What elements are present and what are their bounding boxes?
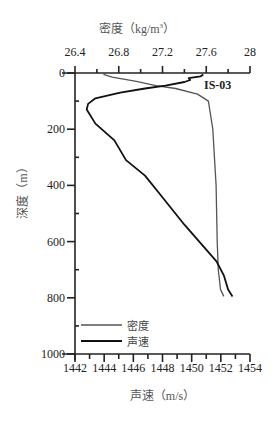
sound-speed-series-line [87,74,233,296]
legend-sound-speed-label: 声速 [127,333,149,349]
x-top-tick-label: 26.8 [108,45,129,60]
plot-area [87,74,233,296]
x-top-tick-label: 27.6 [196,45,217,60]
x-top-tick-label: 27.2 [152,45,173,60]
x-bottom-tick-label: 1450 [180,361,204,376]
y-tick-label: 0 [25,66,65,81]
station-label: IS-03 [204,78,231,93]
y-tick-label: 1000 [25,347,65,362]
y-tick-label: 800 [25,290,65,305]
x-bottom-tick-label: 1448 [151,361,175,376]
y-tick-label: 400 [25,178,65,193]
x-bottom-axis-title: 声速（m/s） [75,386,250,404]
x-top-tick-label: 26.4 [65,45,86,60]
y-tick-label: 200 [25,122,65,137]
x-bottom-tick-label: 1444 [92,361,116,376]
x-bottom-tick-label: 1454 [238,361,262,376]
density-series-line [103,74,223,296]
x-bottom-tick-label: 1452 [209,361,233,376]
axes [62,66,250,362]
legend-density-label: 密度 [127,317,149,333]
x-bottom-tick-label: 1446 [121,361,145,376]
legend [81,325,122,341]
x-top-axis-title: 密度（kg/m3） [0,19,274,37]
x-top-tick-label: 28 [244,45,256,60]
y-tick-label: 600 [25,234,65,249]
x-bottom-tick-label: 1442 [63,361,87,376]
